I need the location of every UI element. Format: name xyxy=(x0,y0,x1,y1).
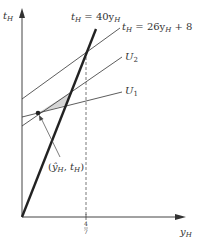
x-tick-denominator: 7 xyxy=(84,228,88,235)
y-axis-arrow-icon xyxy=(19,8,25,18)
budget-line xyxy=(22,28,120,99)
optimum-point-label: (ŷH, tH) xyxy=(48,161,84,174)
x-axis-label: yH xyxy=(179,226,193,239)
y-axis-label: tH xyxy=(3,10,14,23)
pointer-arrow-icon xyxy=(39,115,44,121)
x-axis-arrow-icon xyxy=(175,214,186,220)
pointer-line xyxy=(41,118,60,157)
budget-line-label: tH = 26yH + 8 xyxy=(122,21,192,34)
steep-line xyxy=(22,29,96,217)
optimum-point xyxy=(36,111,41,116)
x-tick-numerator: 4 xyxy=(84,220,88,227)
steep-line-label: tH = 40yH xyxy=(71,11,121,24)
diagram-canvas: tH yH tH = 40yH tH = 26yH + 8 U2 U1 (ŷH,… xyxy=(0,0,200,242)
u2-label: U2 xyxy=(125,51,138,64)
u1-label: U1 xyxy=(125,85,138,98)
